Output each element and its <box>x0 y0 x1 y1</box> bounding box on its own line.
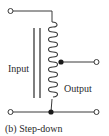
caption: (b) Step-down <box>5 123 63 135</box>
autotransformer-diagram: Input Output (b) Step-down <box>0 0 109 136</box>
terminal-top-left <box>8 9 13 14</box>
terminal-bottom-left <box>8 110 13 115</box>
output-label: Output <box>64 83 92 94</box>
input-label: Input <box>8 63 29 74</box>
terminal-tap-right <box>94 60 99 65</box>
terminal-bottom-right <box>94 110 99 115</box>
bottom-junction-dot <box>48 109 53 114</box>
tap-junction-dot <box>58 59 63 64</box>
coil-winding <box>49 22 58 97</box>
